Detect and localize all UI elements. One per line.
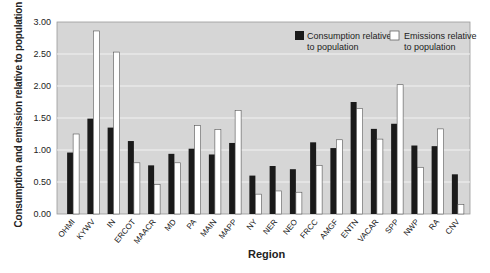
bar-consumption <box>391 124 397 214</box>
bar-emissions <box>134 163 140 214</box>
x-category-label: RA <box>427 217 441 232</box>
y-tick-label: 1.00 <box>33 145 51 155</box>
bar-consumption <box>411 146 417 214</box>
bar-emissions <box>397 85 403 214</box>
x-category-label: NER <box>261 217 279 236</box>
bar-emissions <box>458 204 464 214</box>
x-category-label: IN <box>105 217 117 229</box>
x-category-label: MAPP <box>217 218 238 241</box>
x-category-label: CNV <box>444 217 462 236</box>
bar-emissions <box>438 129 444 214</box>
x-category-label: VACAR <box>356 217 380 244</box>
bar-emissions <box>73 134 79 214</box>
y-tick-label: 3.00 <box>33 17 51 27</box>
x-category-label: MAIN <box>199 217 219 238</box>
bar-consumption <box>249 176 255 214</box>
bar-consumption <box>189 149 195 214</box>
bar-emissions <box>377 139 383 214</box>
bar-emissions <box>336 140 342 214</box>
y-tick-label: 0.00 <box>33 209 51 219</box>
bar-emissions <box>114 52 120 214</box>
x-category-label: MD <box>163 217 178 232</box>
y-axis-ticks: 0.000.501.001.502.002.503.00 <box>33 17 51 219</box>
bar-chart: 0.000.501.001.502.002.503.00 OHMIKYWVINE… <box>0 0 490 273</box>
bar-consumption <box>371 129 377 214</box>
bar-consumption <box>87 119 93 214</box>
x-category-label: NY <box>245 217 259 232</box>
x-category-label: NWP <box>402 218 421 238</box>
legend-swatch-consumption <box>295 31 304 40</box>
bar-emissions <box>93 31 99 214</box>
bar-emissions <box>357 108 363 214</box>
bar-consumption <box>452 174 458 214</box>
bar-emissions <box>316 165 322 214</box>
bar-emissions <box>235 110 241 214</box>
bar-consumption <box>108 128 114 214</box>
x-axis-categories: OHMIKYWVINERCOTMAACRMDPAMAINMAPPNYNERNEO… <box>56 217 461 245</box>
x-category-label: MAACR <box>132 217 158 245</box>
bar-emissions <box>154 185 160 214</box>
legend-consumption-line1: Consumption relative <box>307 31 392 41</box>
bar-emissions <box>276 191 282 214</box>
bar-emissions <box>417 167 423 214</box>
bar-emissions <box>296 192 302 214</box>
y-tick-label: 1.50 <box>33 113 51 123</box>
bar-consumption <box>432 146 438 214</box>
bar-consumption <box>148 165 154 214</box>
bar-emissions <box>255 194 261 214</box>
legend-emissions-line2: to population <box>404 42 456 52</box>
bar-consumption <box>168 154 174 214</box>
x-category-label: PA <box>185 217 199 231</box>
bar-consumption <box>67 153 73 214</box>
bar-consumption <box>209 154 215 214</box>
y-tick-label: 2.50 <box>33 49 51 59</box>
bar-consumption <box>270 166 276 214</box>
legend-consumption-line2: to population <box>307 42 359 52</box>
x-category-label: OHMI <box>56 218 76 240</box>
bar-emissions <box>174 163 180 214</box>
legend-emissions-line1: Emissions relative <box>404 31 477 41</box>
bar-emissions <box>195 126 201 214</box>
y-tick-label: 2.00 <box>33 81 51 91</box>
bar-consumption <box>290 169 296 214</box>
bar-consumption <box>351 102 357 214</box>
x-category-label: KYWV <box>75 217 97 241</box>
bar-consumption <box>310 142 316 214</box>
legend-swatch-emissions <box>390 31 399 40</box>
bar-consumption <box>229 143 235 214</box>
bar-consumption <box>128 141 134 214</box>
x-category-label: SPP <box>383 218 400 236</box>
y-tick-label: 0.50 <box>33 177 51 187</box>
bar-consumption <box>330 148 336 214</box>
x-category-label: AMGF <box>318 217 340 241</box>
x-category-label: FRCC <box>298 217 319 240</box>
x-category-label: NEO <box>281 218 299 237</box>
bar-emissions <box>215 130 221 214</box>
